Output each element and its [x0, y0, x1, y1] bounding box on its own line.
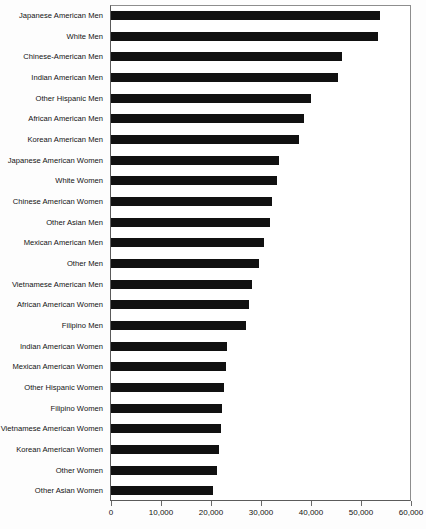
- category-label: Vietnamese American Men: [0, 280, 103, 289]
- x-axis-tick: [411, 501, 412, 506]
- bar: [111, 321, 246, 330]
- bar: [111, 300, 249, 309]
- category-label: Japanese American Women: [0, 156, 103, 165]
- bar: [111, 424, 221, 433]
- bar: [111, 383, 224, 392]
- x-axis-tick-label: 20,000: [199, 508, 223, 518]
- category-label: Other Asian Women: [0, 486, 103, 495]
- category-label: Other Women: [0, 466, 103, 475]
- category-label: Japanese American Men: [0, 11, 103, 20]
- x-axis-tick-labels: 010,00020,00030,00040,00050,00060,000: [0, 508, 426, 522]
- x-axis-tick-label: 30,000: [249, 508, 273, 518]
- bar: [111, 280, 252, 289]
- x-axis-tick: [161, 501, 162, 506]
- category-label: White Men: [0, 32, 103, 41]
- x-axis-tick: [361, 501, 362, 506]
- category-label: Mexican American Men: [0, 238, 103, 247]
- category-label: Other Hispanic Women: [0, 383, 103, 392]
- bar: [111, 114, 304, 123]
- x-axis-tick-label: 0: [109, 508, 113, 518]
- bar: [111, 238, 264, 247]
- x-axis-tick: [261, 501, 262, 506]
- x-axis-tick: [311, 501, 312, 506]
- category-label: Korean American Men: [0, 135, 103, 144]
- bar: [111, 156, 279, 165]
- bar: [111, 32, 378, 41]
- bar: [111, 197, 272, 206]
- category-label: Mexican American Women: [0, 362, 103, 371]
- bar: [111, 342, 227, 351]
- x-axis-tick: [111, 501, 112, 506]
- x-axis-tick-marks: [111, 501, 412, 506]
- bar: [111, 362, 226, 371]
- category-label: African American Women: [0, 300, 103, 309]
- bar: [111, 94, 311, 103]
- x-axis-tick-label: 50,000: [349, 508, 373, 518]
- x-axis-tick-label: 10,000: [149, 508, 173, 518]
- bars-layer: [111, 5, 411, 501]
- category-label: Other Asian Men: [0, 218, 103, 227]
- bar: [111, 176, 277, 185]
- category-label: African American Men: [0, 114, 103, 123]
- category-label: Other Hispanic Men: [0, 94, 103, 103]
- x-axis-tick-label: 40,000: [299, 508, 323, 518]
- bar: [111, 466, 217, 475]
- category-label: Filipino Men: [0, 321, 103, 330]
- bar: [111, 135, 299, 144]
- category-label: Chinese-American Men: [0, 52, 103, 61]
- bar: [111, 11, 380, 20]
- bar: [111, 486, 213, 495]
- category-label: Indian American Women: [0, 342, 103, 351]
- x-axis-tick-label: 60,000: [399, 508, 423, 518]
- bar: [111, 73, 338, 82]
- category-label: Korean American Women: [0, 445, 103, 454]
- bar: [111, 404, 222, 413]
- bar: [111, 218, 270, 227]
- category-label: White Women: [0, 176, 103, 185]
- bar: [111, 52, 342, 61]
- bar: [111, 445, 219, 454]
- bar-chart: Japanese American MenWhite MenChinese-Am…: [0, 0, 426, 529]
- category-label: Other Men: [0, 259, 103, 268]
- category-label: Filipino Women: [0, 404, 103, 413]
- category-label: Vietnamese American Women: [0, 424, 103, 433]
- category-label: Indian American Men: [0, 73, 103, 82]
- x-axis-tick: [211, 501, 212, 506]
- category-axis-labels: Japanese American MenWhite MenChinese-Am…: [0, 5, 106, 501]
- category-label: Chinese American Women: [0, 197, 103, 206]
- bar: [111, 259, 259, 268]
